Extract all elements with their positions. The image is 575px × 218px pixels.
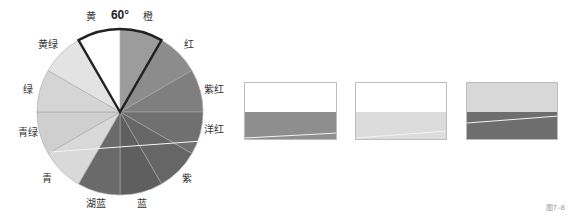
color-wheel [0,0,240,218]
swatch-white-line [356,83,447,140]
segment-label: 洋红 [204,125,224,135]
figure-caption: 图7–8 [546,202,565,212]
segment-label: 黄 [86,12,96,22]
segment-label: 蓝 [137,199,147,209]
segment-label: 湖蓝 [86,199,106,209]
angle-label: 60° [111,9,129,21]
segment-label: 紫 [182,174,192,184]
color-swatch [355,82,447,140]
segment-label: 黄绿 [38,40,58,50]
segment-label: 橙 [143,12,153,22]
swatch-white-line [467,83,558,140]
segment-label: 紫红 [204,85,224,95]
segment-label: 红 [184,40,194,50]
color-swatch [244,82,337,140]
segment-label: 青 [42,174,52,184]
color-swatch [466,82,558,140]
swatch-white-line [245,83,337,140]
segment-label: 青绿 [18,128,38,138]
segment-label: 绿 [23,85,33,95]
